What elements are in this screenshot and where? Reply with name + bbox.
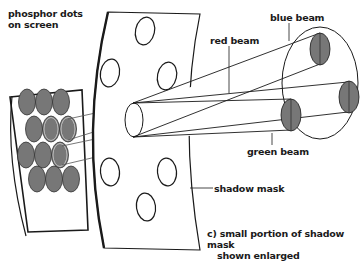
label-phosphor-dots-line2: on screen [8,19,83,30]
label-phosphor-dots-line1: phosphor dots [8,8,83,19]
label-red-beam: red beam [210,35,259,46]
caption-line2: shown enlarged [207,250,364,261]
label-phosphor-dots: phosphor dots on screen [8,8,83,30]
caption: c) small portion of shadow mask shown en… [207,228,364,261]
caption-line1: c) small portion of shadow mask [207,228,364,250]
label-blue-beam: blue beam [270,12,324,23]
phosphor-screen [10,89,88,236]
label-green-beam: green beam [247,146,309,157]
label-shadow-mask: shadow mask [214,183,284,194]
